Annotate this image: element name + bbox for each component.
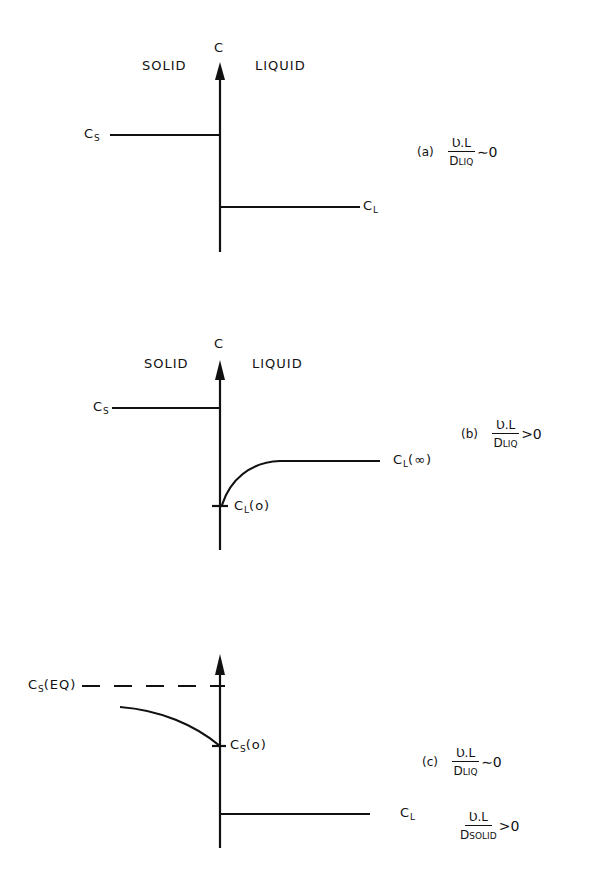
panel-c-condition-1: (c) Ʋ.LDLIQ ∼0: [422, 746, 502, 778]
panel-b-liquid-region-label: LIQUID: [252, 356, 303, 371]
panel-a-axis-label: C: [214, 40, 224, 55]
panel-b-cl0-label: CL(o): [234, 498, 270, 513]
panel-b-lines: [112, 360, 380, 550]
panel-b-clinf-label: CL(∞): [393, 452, 432, 467]
panel-a-condition: (a) Ʋ.LDLIQ ∼0: [417, 136, 498, 168]
panel-b-axis-label: C: [214, 336, 224, 351]
panel-b-cs-label: CS: [93, 399, 109, 414]
panel-c-cs0-label: CS(o): [230, 737, 267, 752]
panel-a-liquid-region-label: LIQUID: [255, 58, 306, 73]
panel-c-cseq-label: CS(EQ): [28, 677, 76, 692]
panel-c-lines: [82, 654, 370, 848]
panel-b-solid-region-label: SOLID: [144, 356, 189, 371]
panel-a-cs-label: CS: [84, 126, 100, 141]
panel-c-cl-label: CL: [400, 805, 415, 820]
panel-a-solid-region-label: SOLID: [142, 58, 187, 73]
panel-b-condition: (b) Ʋ.LDLIQ >0: [461, 418, 542, 450]
panel-a-cl-label: CL: [363, 198, 378, 213]
panel-c-condition-2: Ʋ.LDSOLID >0: [460, 810, 519, 842]
panel-a-lines: [110, 62, 360, 252]
